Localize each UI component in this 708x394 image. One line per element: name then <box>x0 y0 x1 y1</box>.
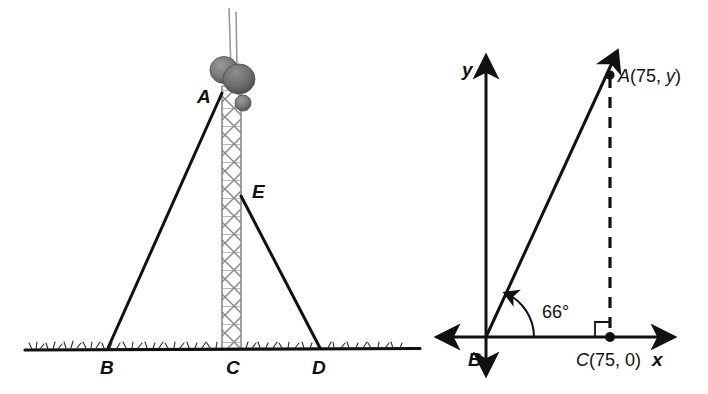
angle-label-66: 66° <box>542 302 569 322</box>
y-axis-label: y <box>461 59 474 80</box>
label-point-A: A <box>196 86 211 107</box>
lattice-tower <box>222 86 241 349</box>
label-origin-B: B <box>468 349 482 370</box>
label-point-A-coords: A(75, y) <box>617 66 681 86</box>
label-point-B: B <box>100 357 114 378</box>
radio-tower-elevation-diagram: A B C D E <box>0 0 430 394</box>
segment-A-B <box>108 93 222 348</box>
point-C-dot <box>605 332 615 342</box>
figure-canvas: A B C D E y x B <box>0 0 708 394</box>
label-point-D: D <box>312 357 326 378</box>
segment-E-D <box>241 196 320 348</box>
x-axis-label: x <box>651 349 664 370</box>
label-point-C: C <box>226 357 240 378</box>
label-point-E: E <box>252 181 266 202</box>
point-A-dot <box>605 70 614 79</box>
coordinate-plane-diagram: y x B A(75, y) C(75, 0) 66° <box>430 0 708 394</box>
angle-arc-66 <box>505 293 534 337</box>
label-point-C-coords: C(75, 0) <box>576 350 641 370</box>
